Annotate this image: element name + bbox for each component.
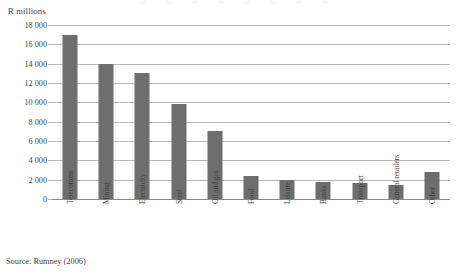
bar-slot (233, 25, 269, 199)
x-axis-tick-label: Electricity (138, 173, 147, 204)
source-note: Source: Rumney (2006) (6, 257, 86, 266)
x-axis-tick-label: General retailers (392, 155, 401, 204)
x-axis-label-slot: General retailers (378, 202, 414, 250)
x-axis-label-slot: Mining (88, 202, 124, 250)
bar (99, 64, 114, 199)
bar-slot (305, 25, 341, 199)
x-axis-tick-label: Leisure (283, 182, 292, 204)
x-axis-tick-label: Food (247, 189, 256, 204)
x-axis-tick-label: Telecomms (66, 170, 75, 204)
y-axis-tick-label: 4 000 (29, 156, 47, 165)
x-axis-tick-label: Oil and gas (211, 170, 220, 204)
y-axis-tick-label: 2 000 (29, 176, 47, 185)
bar-slot (161, 25, 197, 199)
y-axis-tick-label: 0 (43, 195, 47, 204)
bar-chart-figure: R millions 18 00016 00014 00012 00010 00… (0, 0, 458, 274)
bar (171, 104, 186, 199)
x-axis-labels-group: TelecommsMiningElectricitySteelOil and g… (52, 202, 450, 250)
x-axis-tick-label: Transport (356, 176, 365, 204)
bars-group (52, 25, 450, 199)
x-axis-label-slot: Transport (341, 202, 377, 250)
bar-slot (341, 25, 377, 199)
x-axis-label-slot: Food (233, 202, 269, 250)
x-axis-tick-label: Other (428, 187, 437, 204)
x-axis-label-slot: Oil and gas (197, 202, 233, 250)
plot-area: 18 00016 00014 00012 00010 0008 0006 000… (52, 25, 450, 200)
x-axis-label-slot: Steel (161, 202, 197, 250)
x-axis-label-slot: Telecomms (52, 202, 88, 250)
y-axis-tick-label: 8 000 (29, 118, 47, 127)
y-axis-unit-label: R millions (8, 6, 46, 16)
bar-slot (88, 25, 124, 199)
bar-slot (269, 25, 305, 199)
x-axis-label-slot: Other (414, 202, 450, 250)
x-axis-tick-label: Mining (102, 182, 111, 204)
y-axis-tick-label: 6 000 (29, 137, 47, 146)
y-axis-tick-label: 16 000 (24, 40, 47, 49)
x-axis-tick-label: Steel (175, 189, 184, 204)
y-axis-tick-label: 14 000 (24, 60, 47, 69)
y-axis-tick-label: 12 000 (24, 79, 47, 88)
y-axis-tick-label: 18 000 (24, 21, 47, 30)
x-axis-tick-label: Banks (319, 186, 328, 204)
y-axis-tick-label: 10 000 (24, 98, 47, 107)
scan-artifact (140, 1, 330, 4)
x-axis-label-slot: Leisure (269, 202, 305, 250)
x-axis-label-slot: Electricity (124, 202, 160, 250)
bar-slot (414, 25, 450, 199)
x-axis-label-slot: Banks (305, 202, 341, 250)
